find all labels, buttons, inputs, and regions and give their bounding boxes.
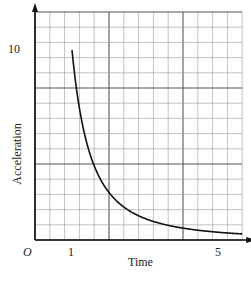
x-axis-label: Time xyxy=(128,256,153,268)
chart-plot xyxy=(0,0,251,282)
acceleration-curve xyxy=(72,50,242,234)
grid xyxy=(35,12,242,240)
x-tick-1: 1 xyxy=(68,246,74,258)
y-tick-10: 10 xyxy=(8,43,20,55)
x-tick-5: 5 xyxy=(215,246,221,258)
y-axis-label: Acceleration xyxy=(11,119,23,189)
origin-label: O xyxy=(23,246,32,258)
